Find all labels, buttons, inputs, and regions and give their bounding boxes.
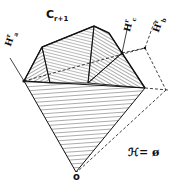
vertex-point xyxy=(121,52,124,55)
vertex-point xyxy=(22,79,25,82)
title-letter: C xyxy=(46,8,54,21)
h-a-sub: a xyxy=(11,31,19,37)
equation-label: ℋ= ø xyxy=(128,147,159,158)
h-c-sub: c xyxy=(130,17,138,22)
lower-cone xyxy=(24,81,145,172)
vertex-point xyxy=(144,47,146,49)
title-subscript: r+1 xyxy=(54,15,68,23)
diagram-title: Cr+1 xyxy=(46,9,68,23)
origin-label: o xyxy=(73,172,80,182)
upper-polytope xyxy=(24,26,145,88)
